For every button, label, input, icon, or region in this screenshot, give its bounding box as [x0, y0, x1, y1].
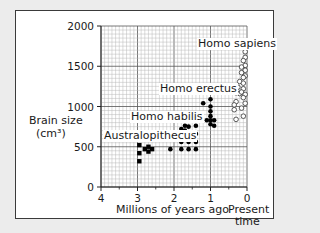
data-point-homo-habilis: [186, 147, 191, 152]
data-point-homo-habilis: [168, 147, 173, 152]
data-point-homo-erectus: [201, 101, 206, 106]
data-point-homo-sapiens: [243, 101, 248, 106]
data-point-australopithecus: [146, 149, 150, 153]
data-point-homo-sapiens: [241, 75, 246, 80]
data-point-homo-erectus: [205, 118, 210, 123]
data-point-homo-habilis: [194, 124, 199, 129]
data-point-australopithecus: [137, 143, 141, 147]
data-point-homo-sapiens: [243, 49, 248, 54]
label-homo-sapiens: Homo sapiens: [197, 38, 277, 50]
data-point-homo-sapiens: [232, 103, 237, 108]
data-point-homo-habilis: [179, 147, 184, 152]
data-point-homo-sapiens: [241, 58, 246, 63]
x-present-label-2: time: [235, 216, 260, 228]
data-point-homo-erectus: [208, 104, 213, 109]
y-tick-label: 1500: [67, 60, 94, 72]
label-homo-habilis: Homo habilis: [130, 111, 204, 123]
x-axis-label: Millions of years ago: [116, 204, 229, 216]
data-point-homo-sapiens: [232, 107, 237, 112]
data-point-homo-erectus: [212, 118, 217, 123]
data-point-homo-sapiens: [241, 81, 246, 86]
data-point-homo-erectus: [208, 114, 213, 119]
data-point-homo-sapiens: [239, 106, 244, 111]
data-point-homo-sapiens: [234, 117, 239, 122]
y-tick-label: 500: [74, 141, 94, 153]
y-axis-label: Brain size: [29, 115, 83, 127]
y-tick-label: 0: [87, 181, 94, 193]
data-point-australopithecus: [137, 151, 141, 155]
data-point-homo-habilis: [194, 147, 199, 152]
data-point-homo-sapiens: [241, 114, 246, 119]
label-australopithecus: Australopithecus: [103, 130, 197, 142]
data-point-homo-sapiens: [241, 95, 246, 100]
data-point-homo-erectus: [208, 109, 213, 114]
data-point-homo-erectus: [208, 97, 213, 102]
data-point-australopithecus: [137, 159, 141, 163]
data-point-homo-erectus: [212, 124, 217, 129]
x-tick-label: 4: [98, 192, 105, 204]
y-axis-units: (cm³): [36, 128, 66, 140]
y-tick-label: 1000: [67, 101, 94, 113]
label-homo-erectus: Homo erectus: [159, 83, 238, 95]
y-tick-label: 2000: [67, 20, 94, 32]
